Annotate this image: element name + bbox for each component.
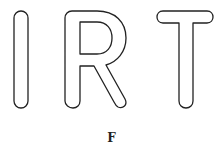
letter-r-outline — [65, 11, 126, 108]
figure-caption: F — [0, 131, 223, 145]
letter-i-outline — [14, 11, 28, 108]
letter-t-outline — [157, 11, 213, 108]
letter-outline-figure — [0, 0, 223, 148]
